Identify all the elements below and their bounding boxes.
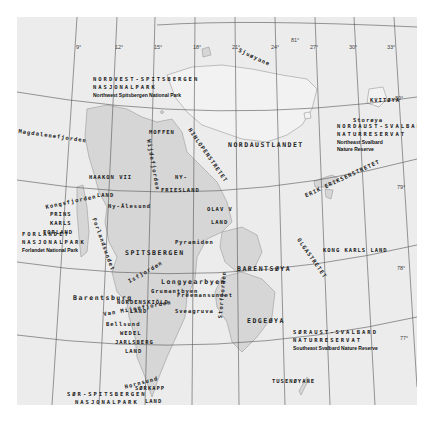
region-label: LAND xyxy=(211,219,228,225)
park-label: NASJONALPARK xyxy=(22,240,86,246)
region-label: NORDAUSTLANDET xyxy=(228,141,304,149)
region-label: HAAKON VII xyxy=(89,174,132,180)
park-label: SØR-SPITSBERGEN xyxy=(67,392,147,398)
park-label: NORDAUST-SVALBARD xyxy=(337,124,417,130)
region-label: WEDEL xyxy=(120,330,142,336)
region-label: KARLS xyxy=(50,220,72,226)
park-label: NORDVEST-SPITSBERGEN xyxy=(93,77,199,83)
region-label: TUSENØYANE xyxy=(272,378,315,384)
park-english-label: Forlandet National Park xyxy=(22,248,78,253)
settlement-label: Ny-Ålesund xyxy=(108,203,151,209)
region-label: FORLAND xyxy=(43,229,73,235)
park-english-label: Southeast Svalbard Nature Reserve xyxy=(293,346,378,351)
region-label: NY- xyxy=(175,174,188,180)
longitude-label: 30° xyxy=(349,44,357,50)
latitude-label: 79° xyxy=(397,184,405,190)
park-label: NATURRESERVAT xyxy=(337,132,406,138)
longitude-label: 9° xyxy=(76,44,81,50)
region-label: OLAV V xyxy=(207,206,233,212)
settlement-label: Grumantbyen xyxy=(151,288,198,294)
park-label: NASJONALPARK xyxy=(93,85,157,91)
region-label: JARLSBERG xyxy=(115,339,154,345)
latitude-label: 78° xyxy=(397,265,405,271)
longitude-label: 24° xyxy=(271,44,279,50)
park-label: NATURRESERVAT xyxy=(293,338,362,344)
region-label: BARENTSØYA xyxy=(237,265,291,273)
region-label: KVITØYA xyxy=(370,97,400,103)
region-label: PRINS xyxy=(50,211,72,217)
region-label: Storøya xyxy=(353,117,383,123)
region-label: KONG KARLS LAND xyxy=(323,247,388,253)
svalbard-map: 9° 12° 15° 18° 21° 24° 81° 27° 30° 33° 8… xyxy=(17,17,417,405)
settlement-label: Sveagruva xyxy=(175,308,214,314)
longitude-label: 33° xyxy=(387,44,395,50)
longitude-label: 12° xyxy=(115,44,123,50)
longitude-label: 27° xyxy=(310,44,318,50)
settlement-label: Longyearbyen xyxy=(161,278,226,286)
park-label: SØRAUST-SVALBARD xyxy=(293,330,378,336)
latitude-label: 81° xyxy=(291,37,299,43)
latitude-label: 77° xyxy=(400,335,408,341)
region-label: EDGEØYA xyxy=(247,317,285,325)
region-label: LAND xyxy=(125,348,142,354)
water-label: Bellsund xyxy=(106,321,141,327)
region-label: LAND xyxy=(145,398,162,404)
settlement-label: Barentsburg xyxy=(73,294,133,302)
longitude-label: 18° xyxy=(193,44,201,50)
region-label: LAND xyxy=(97,192,114,198)
settlement-label: Pyramiden xyxy=(175,239,214,245)
region-label: MOFFEN xyxy=(149,129,175,135)
region-label: FRIESLAND xyxy=(161,187,200,193)
park-english-label: Northwest Spitsbergen National Park xyxy=(93,93,181,98)
park-english-label: Northeast Svalbard xyxy=(337,140,383,145)
region-label: SPITSBERGEN xyxy=(125,249,185,257)
longitude-label: 15° xyxy=(154,44,162,50)
park-label: NASJONALPARK xyxy=(75,400,139,405)
park-english-label: Nature Reserve xyxy=(337,147,374,152)
